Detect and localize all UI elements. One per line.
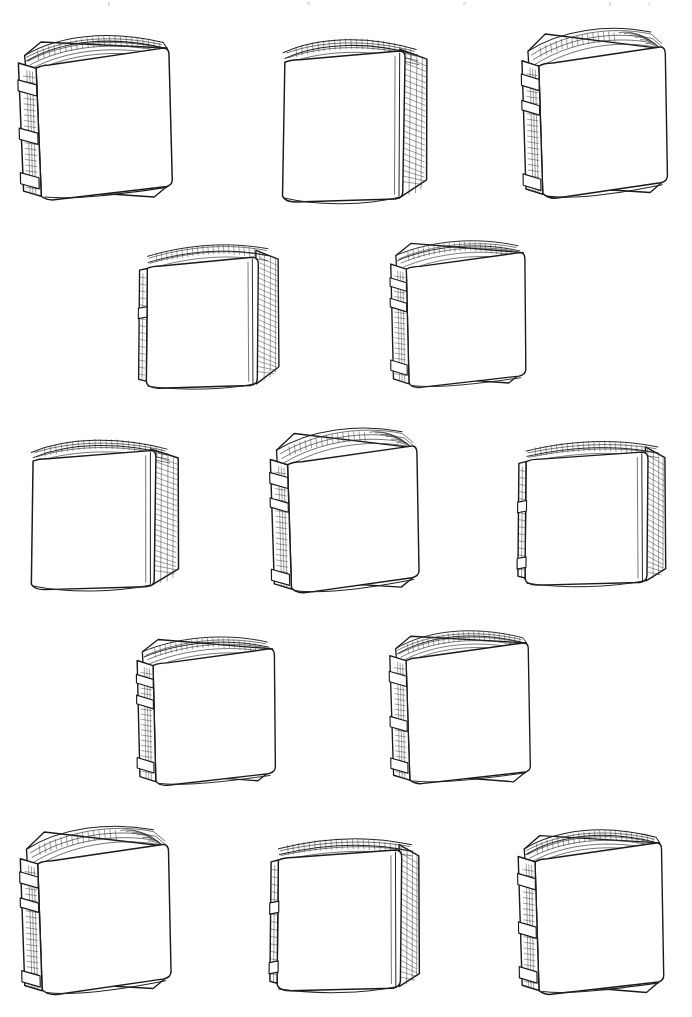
- scan-artifact: [307, 2, 310, 5]
- book-illustration: [506, 16, 685, 217]
- book-illustration: [257, 815, 439, 1013]
- book-illustration: [505, 419, 685, 606]
- illustration-sheet: Hand-Drawn Blank Books Illustration Shee…: [0, 0, 692, 1017]
- book-illustration: [127, 223, 301, 406]
- book-illustration: [260, 20, 445, 221]
- book-illustration: [119, 619, 297, 803]
- book-illustration: [504, 814, 683, 1013]
- book-illustration: [9, 423, 198, 608]
- book-illustration: [376, 617, 549, 802]
- book-illustration: [254, 416, 437, 611]
- scan-artifact: [609, 2, 611, 6]
- book-illustration: [4, 814, 190, 1014]
- book-illustration: [373, 223, 547, 404]
- scan-artifact: [463, 2, 466, 5]
- book-illustration: [3, 20, 193, 220]
- scan-artifact: [108, 2, 110, 6]
- scan-artifact: [648, 3, 650, 6]
